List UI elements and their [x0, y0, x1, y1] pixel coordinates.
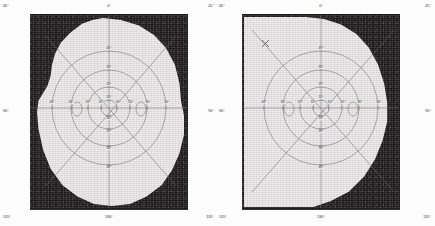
- angle-label-bottom-left: 135°: [219, 216, 227, 220]
- ring-label-right-10: 10°: [327, 101, 333, 104]
- angle-label-top-right: 45°: [208, 5, 214, 9]
- ring-label-right-40: 40°: [164, 101, 170, 104]
- ring-label-up-20: 20°: [318, 83, 324, 86]
- angle-label-top-center: 0°: [107, 5, 111, 9]
- polar-grid-left: [30, 14, 188, 210]
- ring-label-up-10: 10°: [106, 96, 112, 99]
- ring-label-right-10: 10°: [115, 101, 121, 104]
- ring-label-up-10: 10°: [318, 96, 324, 99]
- angle-label-bottom-center: 180°: [105, 216, 113, 220]
- chart-plate-left: 10° 20° 30° 40° 10° 20° 30° 40° 10° 20° …: [30, 14, 188, 210]
- ring-label-left-20: 20°: [297, 101, 303, 104]
- ring-label-down-10: 10°: [106, 117, 112, 120]
- angle-label-bottom-left: 135°: [3, 216, 11, 220]
- fixation-marker-icon: [262, 40, 269, 47]
- ring-label-left-30: 30°: [280, 101, 286, 104]
- ring-label-down-20: 20°: [318, 130, 324, 133]
- ring-label-right-30: 30°: [357, 101, 363, 104]
- ring-label-right-20: 20°: [128, 101, 134, 104]
- visual-field-chart-right-eye: 45° 0° 45° 90° 90° 135° 180° 135°: [218, 0, 435, 226]
- ring-label-left-10: 10°: [98, 101, 104, 104]
- ring-label-up-30: 30°: [106, 66, 112, 69]
- ring-label-down-30: 30°: [106, 147, 112, 150]
- ring-label-up-20: 20°: [106, 83, 112, 86]
- ring-label-up-40: 40°: [106, 47, 112, 50]
- angle-label-right: 90°: [425, 110, 431, 114]
- visual-field-chart-left-eye: 45° 0° 45° 90° 90° 135° 180° 135°: [0, 0, 217, 226]
- chart-plate-right: 10° 20° 30° 40° 10° 20° 30° 40° 10° 20° …: [242, 14, 400, 210]
- polar-grid-right: [242, 14, 400, 210]
- ring-label-left-40: 40°: [49, 101, 55, 104]
- angle-label-left: 90°: [3, 110, 9, 114]
- ring-label-down-10: 10°: [318, 117, 324, 120]
- angle-label-bottom-right: 135°: [206, 216, 214, 220]
- angle-label-top-center: 0°: [319, 5, 323, 9]
- ring-label-down-20: 20°: [106, 130, 112, 133]
- ring-label-down-30: 30°: [318, 147, 324, 150]
- ring-label-down-40: 40°: [106, 166, 112, 169]
- angle-label-bottom-right: 135°: [423, 216, 431, 220]
- angle-label-left: 90°: [219, 110, 225, 114]
- ring-label-up-30: 30°: [318, 66, 324, 69]
- ring-label-left-10: 10°: [310, 101, 316, 104]
- angle-label-right: 90°: [208, 110, 214, 114]
- angle-label-top-left: 45°: [219, 5, 225, 9]
- figure-root: 45° 0° 45° 90° 90° 135° 180° 135°: [0, 0, 435, 226]
- ring-label-down-40: 40°: [318, 166, 324, 169]
- ring-label-right-30: 30°: [145, 101, 151, 104]
- ring-label-left-30: 30°: [68, 101, 74, 104]
- ring-label-left-20: 20°: [85, 101, 91, 104]
- ring-label-up-40: 40°: [318, 47, 324, 50]
- angle-label-top-left: 45°: [3, 5, 9, 9]
- angle-label-top-right: 45°: [425, 5, 431, 9]
- angle-label-bottom-center: 180°: [317, 216, 325, 220]
- ring-label-right-40: 40°: [376, 101, 382, 104]
- ring-label-right-20: 20°: [340, 101, 346, 104]
- ring-label-left-40: 40°: [261, 101, 267, 104]
